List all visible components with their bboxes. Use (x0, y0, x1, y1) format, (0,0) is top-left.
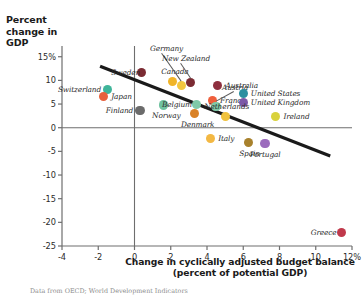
x-axis-title: Change in cyclically adjusted budget bal… (118, 256, 362, 278)
source-note: Data from OECD; World Development Indica… (30, 287, 188, 295)
data-point-label: Norway (152, 111, 180, 120)
y-tick-label: -20 (22, 217, 56, 227)
y-tick-label: -25 (22, 241, 56, 251)
y-tick-label: -10 (22, 170, 56, 180)
x-tick-label: -2 (85, 252, 111, 262)
data-point-label: Japan (111, 92, 132, 101)
data-point-label: Germany (150, 44, 183, 53)
data-point-marker (192, 100, 201, 109)
data-point-label: Greece (311, 228, 337, 237)
data-point-label: New Zealand (162, 54, 210, 63)
x-tick-label: -4 (49, 252, 75, 262)
y-tick-label: 10 (22, 75, 56, 85)
data-point-label: Denmark (181, 120, 214, 129)
data-point-label: Portugal (250, 150, 281, 159)
y-tick-label: 15% (22, 52, 56, 62)
data-point-label: Netherlands (204, 102, 249, 111)
data-point-marker (135, 106, 144, 115)
data-point-marker (190, 109, 199, 118)
data-point-label: Switzerland (58, 85, 101, 94)
data-point-marker (337, 228, 346, 237)
y-tick-label: 0 (22, 123, 56, 133)
data-point-marker (186, 78, 195, 87)
data-point-label: Finland (106, 106, 133, 115)
y-tick-label: 5 (22, 99, 56, 109)
scatter-chart: Percent change in GDP 15%1050-5-10-15-20… (0, 0, 364, 296)
data-point-label: United Kingdom (251, 98, 310, 107)
data-point-marker (239, 89, 248, 98)
y-tick-label: -5 (22, 146, 56, 156)
data-point-marker (260, 139, 269, 148)
data-point-label: Sweden (111, 68, 140, 77)
data-point-label: Ireland (283, 112, 309, 121)
data-point-label: Italy (218, 134, 234, 143)
data-point-label: Belgium (162, 100, 192, 109)
y-tick-label: -15 (22, 194, 56, 204)
